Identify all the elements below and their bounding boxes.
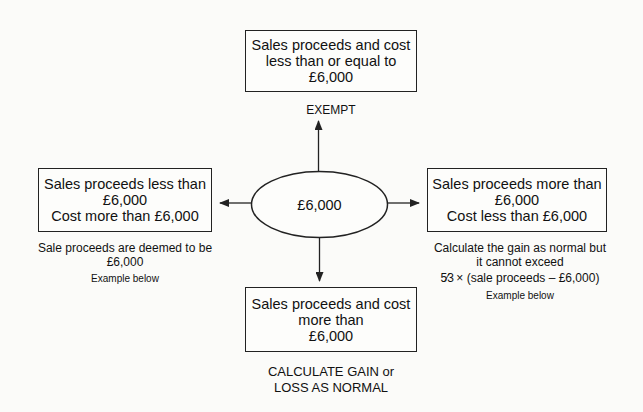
right-example-note: Example below	[420, 290, 620, 301]
right-formula: 5⁄3 × (sale proceeds – £6,000)	[420, 271, 620, 285]
left-note-line-1: Sale proceeds are deemed to be	[20, 241, 230, 255]
top-box-line-1: Sales proceeds and cost	[252, 37, 411, 53]
right-box-line-1: Sales proceeds more than	[432, 176, 601, 192]
right-note: Calculate the gain as normal but it cann…	[420, 241, 620, 285]
top-box-line-2: less than or equal to	[266, 53, 397, 69]
bottom-result-line-2: LOSS AS NORMAL	[245, 380, 417, 396]
right-box-line-3: Cost less than £6,000	[447, 208, 587, 224]
bottom-condition-box: Sales proceeds and cost more than £6,000	[245, 287, 417, 352]
left-box-line-3: Cost more than £6,000	[51, 208, 199, 224]
bottom-result: CALCULATE GAIN or LOSS AS NORMAL	[245, 364, 417, 396]
right-note-line-2: it cannot exceed	[420, 255, 620, 269]
formula-expression: × (sale proceeds – £6,000)	[453, 271, 599, 285]
bottom-box-line-3: £6,000	[309, 328, 353, 344]
top-condition-box: Sales proceeds and cost less than or equ…	[245, 30, 417, 92]
left-note: Sale proceeds are deemed to be £6,000	[20, 241, 230, 269]
bottom-result-line-1: CALCULATE GAIN or	[245, 364, 417, 380]
right-condition-box: Sales proceeds more than £6,000 Cost les…	[427, 168, 607, 232]
center-label: £6,000	[251, 171, 388, 238]
left-note-line-2: £6,000	[20, 255, 230, 269]
formula-fraction: 5⁄3	[441, 271, 453, 285]
top-box-line-3: £6,000	[309, 69, 353, 85]
bottom-box-line-2: more than	[298, 312, 363, 328]
top-result-exempt: EXEMPT	[245, 103, 417, 117]
bottom-box-line-1: Sales proceeds and cost	[252, 296, 411, 312]
left-box-line-1: Sales proceeds less than	[44, 176, 206, 192]
right-box-line-2: £6,000	[495, 192, 539, 208]
left-condition-box: Sales proceeds less than £6,000 Cost mor…	[38, 168, 212, 232]
left-example-note: Example below	[20, 273, 230, 284]
right-note-line-1: Calculate the gain as normal but	[420, 241, 620, 255]
left-box-line-2: £6,000	[103, 192, 147, 208]
